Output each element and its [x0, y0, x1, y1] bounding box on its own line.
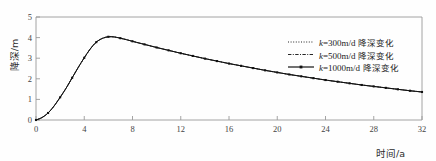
- chart-figure: 降深/m 时间/a 048121620242832 012345 k=300m/…: [0, 0, 436, 161]
- legend-entry-label: k=500m/d 降深变化: [319, 49, 394, 61]
- data-point-marker: [144, 43, 146, 45]
- y-tick-label: 2: [18, 74, 32, 84]
- legend-k-value: 300m/d: [328, 38, 356, 48]
- data-point-marker: [276, 71, 278, 73]
- legend-description: 降深变化: [360, 63, 399, 73]
- data-point-marker: [156, 46, 158, 48]
- x-tick-label: 24: [316, 124, 336, 134]
- data-point-marker: [385, 87, 387, 89]
- y-tick-label: 3: [18, 53, 32, 63]
- x-tick-label: 8: [123, 124, 143, 134]
- x-tick-label: 32: [412, 124, 432, 134]
- chart-canvas: [0, 0, 436, 161]
- data-point-marker: [288, 73, 290, 75]
- data-point-marker: [421, 91, 423, 93]
- legend-k-value: 1000m/d: [328, 63, 360, 73]
- data-point-marker: [119, 37, 121, 39]
- legend-k-value: 500m/d: [328, 51, 356, 61]
- data-point-marker: [71, 77, 73, 79]
- data-point-marker: [131, 40, 133, 42]
- data-point-marker: [252, 67, 254, 69]
- x-tick-label: 16: [219, 124, 239, 134]
- x-tick-label: 12: [171, 124, 191, 134]
- legend-sample-marker: [300, 66, 303, 69]
- data-point-marker: [107, 36, 109, 38]
- x-axis-title: 时间/a: [376, 146, 405, 160]
- y-axis-ticks: [36, 17, 40, 120]
- data-point-marker: [47, 112, 49, 114]
- legend-description: 降深变化: [356, 38, 395, 48]
- y-tick-label: 1: [18, 94, 32, 104]
- legend-entry-label: k=1000m/d 降深变化: [319, 61, 399, 73]
- data-point-marker: [35, 119, 37, 121]
- y-tick-label: 0: [18, 115, 32, 125]
- legend-entry-label: k=300m/d 降深变化: [319, 36, 394, 48]
- data-point-marker: [337, 81, 339, 83]
- data-point-marker: [324, 79, 326, 81]
- data-point-marker: [59, 96, 61, 98]
- data-point-marker: [373, 85, 375, 87]
- legend-description: 降深变化: [356, 51, 395, 61]
- y-tick-label: 5: [18, 12, 32, 22]
- x-axis-ticks: [36, 116, 422, 120]
- data-point-marker: [300, 75, 302, 77]
- y-tick-label: 4: [18, 33, 32, 43]
- data-point-marker: [83, 57, 85, 59]
- data-point-marker: [349, 82, 351, 84]
- data-point-marker: [228, 63, 230, 65]
- data-point-marker: [240, 65, 242, 67]
- data-point-marker: [312, 77, 314, 79]
- legend-line-samples: [288, 42, 314, 68]
- data-point-marker: [216, 60, 218, 62]
- data-point-marker: [204, 58, 206, 60]
- x-tick-label: 0: [26, 124, 46, 134]
- x-tick-label: 28: [364, 124, 384, 134]
- data-point-marker: [361, 84, 363, 86]
- data-point-marker: [264, 69, 266, 71]
- data-point-marker: [180, 52, 182, 54]
- data-point-marker: [95, 41, 97, 43]
- data-point-marker: [397, 88, 399, 90]
- data-point-marker: [409, 90, 411, 92]
- x-tick-label: 4: [74, 124, 94, 134]
- x-tick-label: 20: [267, 124, 287, 134]
- data-point-marker: [192, 55, 194, 57]
- data-point-marker: [168, 49, 170, 51]
